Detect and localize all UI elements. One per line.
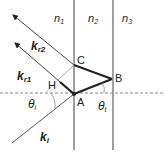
segment-HA <box>60 82 74 94</box>
theta-i-arc <box>51 93 55 109</box>
label-n3: n3 <box>122 12 132 25</box>
label-B: B <box>115 72 122 84</box>
optics-diagram: n1 n2 n3 kr2 kr1 ki C B A H θi θt <box>0 0 164 156</box>
label-kr2: kr2 <box>31 39 46 54</box>
label-ki: ki <box>40 130 50 145</box>
point-A-dot <box>72 92 76 96</box>
label-kr1: kr1 <box>17 69 32 84</box>
segment-CH <box>58 65 74 80</box>
theta-t-arc <box>102 83 104 93</box>
reflected-ray-2 <box>13 15 74 65</box>
label-theta-i: θi <box>28 97 37 111</box>
label-A: A <box>77 96 85 108</box>
segment-AB <box>74 79 112 94</box>
segment-BC <box>74 65 112 79</box>
label-H: H <box>48 79 56 91</box>
label-n1: n1 <box>54 12 64 25</box>
label-C: C <box>77 54 85 66</box>
label-theta-t: θt <box>98 99 108 113</box>
label-n2: n2 <box>88 12 98 25</box>
